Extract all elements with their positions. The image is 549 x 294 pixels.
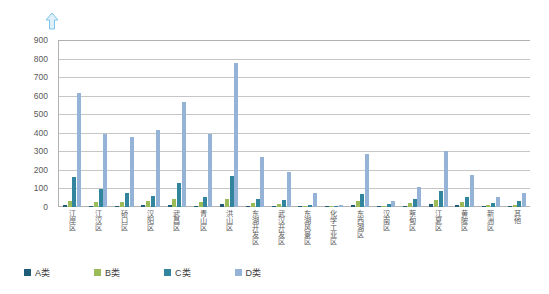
legend-swatch-icon [24, 269, 31, 276]
bar-b [68, 201, 72, 207]
bar-d [365, 154, 369, 207]
y-axis-tick-700: 700 [34, 72, 48, 82]
bar-d [287, 172, 291, 207]
bar-c [491, 203, 495, 207]
bar-group [321, 40, 347, 207]
y-axis-tick-300: 300 [34, 146, 48, 156]
x-axis-tick-label: 其他 [513, 210, 520, 258]
x-axis-tick-label: 青山区 [199, 210, 206, 258]
bar-group [111, 40, 137, 207]
bar-group [425, 40, 451, 207]
bar-group [347, 40, 373, 207]
x-axis-label-cell: 化学工业区 [321, 210, 347, 258]
y-axis-labels: 0100200300400500600700800900 [0, 40, 54, 207]
bar-c [360, 194, 364, 207]
x-axis-tick-label: 硚口区 [121, 210, 128, 258]
bar-b [382, 206, 386, 207]
bar-a [455, 205, 459, 207]
legend-label: A类 [35, 266, 50, 279]
y-axis-tick-900: 900 [34, 35, 48, 45]
bar-b [329, 206, 333, 207]
bar-d [496, 197, 500, 207]
y-axis-tick-200: 200 [34, 165, 48, 175]
legend-item-A[interactable]: A类 [24, 266, 50, 279]
bar-c [465, 197, 469, 207]
bar-a [168, 205, 172, 207]
bar-b [146, 201, 150, 207]
x-axis-tick-label: 江汉区 [95, 210, 102, 258]
bar-b [120, 202, 124, 207]
bar-group [59, 40, 85, 207]
bar-d [313, 193, 317, 207]
bar-group [373, 40, 399, 207]
bar-group [478, 40, 504, 207]
x-axis-tick-label: 武汉开发区 [278, 210, 285, 258]
bar-d [339, 205, 343, 207]
bar-a [377, 206, 381, 207]
legend-swatch-icon [94, 269, 101, 276]
bar-b [199, 202, 203, 207]
x-axis-label-cell: 黄陂区 [452, 210, 478, 258]
bar-d [182, 102, 186, 207]
bar-c [308, 205, 312, 207]
x-axis-tick-label: 黄陂区 [461, 210, 468, 258]
bar-b [434, 200, 438, 207]
x-axis-tick-label: 江夏区 [435, 210, 442, 258]
bar-b [513, 205, 517, 207]
legend-label: C类 [175, 266, 191, 279]
bar-b [356, 201, 360, 207]
x-axis-tick-label: 汉阳区 [147, 210, 154, 258]
bar-d [234, 63, 238, 207]
x-axis-tick-label: 东湖风景区 [304, 210, 311, 258]
y-axis-tick-600: 600 [34, 91, 48, 101]
x-axis-label-cell: 青山区 [190, 210, 216, 258]
bar-a [325, 206, 329, 207]
bar-group [138, 40, 164, 207]
x-axis-label-cell: 洪山区 [216, 210, 242, 258]
bar-a [220, 204, 224, 207]
x-axis-tick-label: 化学工业区 [330, 210, 337, 258]
bar-d [103, 134, 107, 207]
bar-a [298, 206, 302, 207]
bar-d [444, 151, 448, 207]
bar-a [246, 206, 250, 207]
bar-d [417, 187, 421, 207]
x-axis-tick-label: 江岸区 [68, 210, 75, 258]
bar-a [508, 206, 512, 207]
bar-c [517, 201, 521, 207]
bar-b [172, 199, 176, 207]
bar-c [99, 189, 103, 207]
bar-groups [59, 40, 530, 207]
bar-c [125, 193, 129, 207]
bar-d [208, 134, 212, 207]
legend-swatch-icon [235, 269, 242, 276]
y-axis-tick-400: 400 [34, 128, 48, 138]
x-axis-tick-label: 东湖开发区 [252, 210, 259, 258]
bar-group [164, 40, 190, 207]
x-axis-label-cell: 汉阳区 [138, 210, 164, 258]
bar-group [85, 40, 111, 207]
bar-group [216, 40, 242, 207]
bar-group [399, 40, 425, 207]
bar-d [130, 137, 134, 208]
bar-c [439, 191, 443, 207]
bar-b [408, 203, 412, 207]
bar-a [115, 206, 119, 207]
x-axis-tick-label: 东西湖区 [356, 210, 363, 258]
y-axis-tick-0: 0 [43, 202, 48, 212]
x-axis-tick-label: 洪山区 [226, 210, 233, 258]
x-axis-label-cell: 江岸区 [59, 210, 85, 258]
bar-d [522, 193, 526, 207]
bar-group [190, 40, 216, 207]
x-axis-label-cell: 其他 [504, 210, 530, 258]
legend-item-D[interactable]: D类 [235, 266, 262, 279]
legend-item-C[interactable]: C类 [164, 266, 191, 279]
legend-item-B[interactable]: B类 [94, 266, 120, 279]
bar-d [77, 93, 81, 207]
bar-d [391, 201, 395, 207]
legend-swatch-icon [164, 269, 171, 276]
bar-a [194, 206, 198, 207]
up-arrow-icon [44, 12, 60, 30]
bar-b [251, 203, 255, 207]
legend-label: B类 [105, 266, 120, 279]
